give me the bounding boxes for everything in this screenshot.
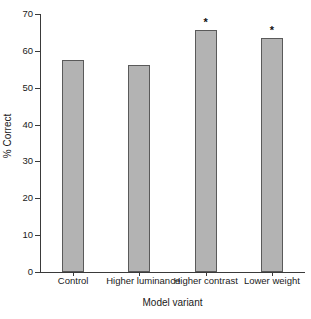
- x-axis-tick-label: Higher contrast: [173, 276, 239, 286]
- y-axis-tick-label: 40: [7, 120, 33, 130]
- x-axis-tick-label: Control: [40, 276, 106, 286]
- y-axis-tick-label: 0: [7, 267, 33, 277]
- y-axis-tick: [35, 14, 40, 15]
- x-axis-line: [40, 272, 305, 273]
- y-axis-tick: [35, 51, 40, 52]
- y-axis-tick: [35, 198, 40, 199]
- x-axis-tick-label: Lower weight: [239, 276, 305, 286]
- significance-asterisk: *: [270, 26, 274, 34]
- bar[interactable]: [62, 60, 84, 272]
- bar[interactable]: [195, 30, 217, 272]
- y-axis-tick-label: 70: [7, 9, 33, 19]
- bar-group: [106, 14, 172, 272]
- bar-group: *: [239, 14, 305, 272]
- plot-area: **: [40, 14, 305, 272]
- y-axis-tick-label: 50: [7, 83, 33, 93]
- y-axis-tick-label: 20: [7, 193, 33, 203]
- bar-group: [40, 14, 106, 272]
- y-axis-tick-label: 60: [7, 46, 33, 56]
- significance-asterisk: *: [203, 18, 207, 26]
- bar[interactable]: [261, 38, 283, 272]
- bar[interactable]: [128, 65, 150, 272]
- x-axis-tick-label: Higher luminance: [106, 276, 172, 286]
- y-axis-tick: [35, 235, 40, 236]
- bar-chart-figure: % Correct 010203040506070 ** Model varia…: [0, 0, 311, 319]
- y-axis-tick: [35, 272, 40, 273]
- bar-group: *: [173, 14, 239, 272]
- y-axis-tick-label: 30: [7, 156, 33, 166]
- y-axis-tick: [35, 88, 40, 89]
- y-axis-tick: [35, 161, 40, 162]
- y-axis-tick: [35, 125, 40, 126]
- x-axis-title: Model variant: [40, 298, 305, 308]
- y-axis-tick-label: 10: [7, 230, 33, 240]
- y-axis-tick-labels: 010203040506070: [0, 0, 33, 319]
